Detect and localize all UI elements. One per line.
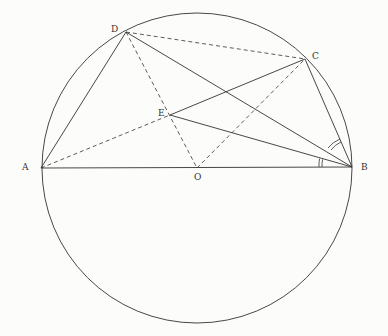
label-e: E [158,108,165,118]
label-c: C [312,51,319,61]
dashed-lines [41,32,305,168]
solid-lines [41,32,352,168]
label-a: A [22,162,29,172]
label-d: D [111,24,118,34]
geometry-diagram: A B C D E O [0,0,388,336]
label-b: B [361,162,368,172]
label-o: O [194,172,201,182]
circle-figure [0,0,388,336]
